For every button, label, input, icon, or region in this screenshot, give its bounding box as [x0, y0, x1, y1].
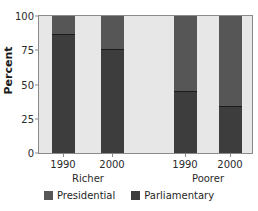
- y-tick-label-100: 100: [5, 11, 39, 22]
- group-label-poorer: Poorer: [192, 173, 224, 184]
- bar-segment-parliamentary: [174, 91, 197, 153]
- bar-segment-presidential: [101, 16, 124, 49]
- legend-label-parliamentary: Parliamentary: [144, 190, 214, 201]
- x-tick-label-richer-2000: 2000: [99, 159, 124, 170]
- bar-segment-presidential: [219, 16, 242, 106]
- bar-poorer-1990: [174, 16, 197, 153]
- legend-item-parliamentary: Parliamentary: [131, 190, 214, 201]
- bar-poorer-2000: [219, 16, 242, 153]
- bar-richer-1990: [52, 16, 75, 153]
- bar-segment-parliamentary: [219, 106, 242, 153]
- stacked-bar-chart: Percent 100 75 50 25 0: [0, 0, 258, 211]
- legend-label-presidential: Presidential: [57, 190, 115, 201]
- bar-segment-parliamentary: [101, 49, 124, 153]
- x-tick-mark-poorer-2000: [230, 153, 231, 157]
- chart-legend: Presidential Parliamentary: [0, 190, 258, 201]
- legend-swatch-icon: [131, 191, 140, 200]
- x-tick-mark-richer-2000: [112, 153, 113, 157]
- bar-segment-presidential: [52, 16, 75, 34]
- y-tick-label-75: 75: [5, 45, 39, 56]
- y-tick-label-0: 0: [5, 148, 39, 159]
- bar-segment-parliamentary: [52, 34, 75, 153]
- y-tick-label-25: 25: [5, 113, 39, 124]
- group-label-richer: Richer: [72, 173, 104, 184]
- x-tick-label-poorer-1990: 1990: [172, 159, 197, 170]
- y-tick-label-50: 50: [5, 79, 39, 90]
- bar-segment-presidential: [174, 16, 197, 91]
- legend-item-presidential: Presidential: [44, 190, 115, 201]
- x-tick-mark-richer-1990: [63, 153, 64, 157]
- legend-swatch-icon: [44, 191, 53, 200]
- bar-richer-2000: [101, 16, 124, 153]
- x-tick-label-richer-1990: 1990: [50, 159, 75, 170]
- x-tick-mark-poorer-1990: [185, 153, 186, 157]
- x-tick-label-poorer-2000: 2000: [217, 159, 242, 170]
- plot-area: 100 75 50 25 0 1990: [38, 15, 253, 154]
